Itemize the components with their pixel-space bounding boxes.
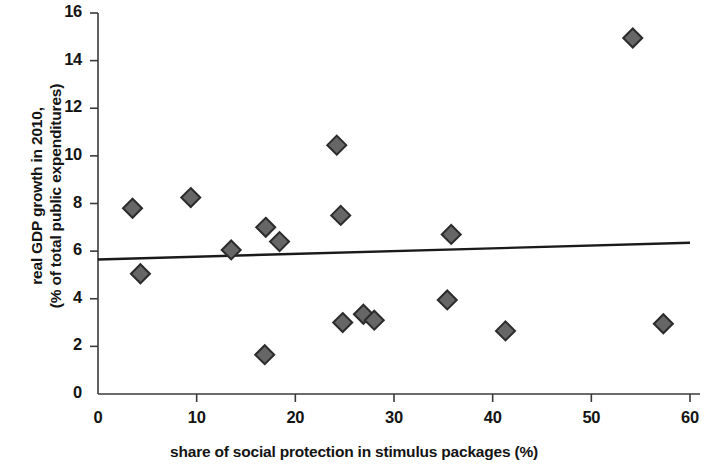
data-points xyxy=(123,29,673,365)
trend-line-segment xyxy=(98,243,690,260)
y-tick-label: 16 xyxy=(42,2,82,21)
y-axis-title: real GDP growth in 2010, (% of total pub… xyxy=(18,46,74,346)
x-tick-label: 50 xyxy=(571,408,611,427)
x-tick-label: 60 xyxy=(670,408,708,427)
x-tick-label: 0 xyxy=(78,408,118,427)
x-tick-label: 20 xyxy=(275,408,315,427)
y-tick-label: 0 xyxy=(42,383,82,402)
x-tick-label: 10 xyxy=(177,408,217,427)
data-point-marker xyxy=(123,199,142,218)
data-point-marker xyxy=(131,264,150,283)
data-point-marker xyxy=(270,232,289,251)
y-axis-title-line1: real GDP growth in 2010, xyxy=(27,107,46,285)
data-point-marker xyxy=(256,218,275,237)
data-point-marker xyxy=(327,136,346,155)
plot-area xyxy=(0,0,708,470)
data-point-marker xyxy=(438,290,457,309)
data-point-marker xyxy=(181,188,200,207)
x-tick-marks xyxy=(197,394,690,402)
data-point-marker xyxy=(654,314,673,333)
data-point-marker xyxy=(623,29,642,48)
data-point-marker xyxy=(331,206,350,225)
scatter-chart: 0246810121416 0102030405060 real GDP gro… xyxy=(0,0,708,470)
data-point-marker xyxy=(333,313,352,332)
x-tick-label: 30 xyxy=(374,408,414,427)
x-axis-title: share of social protection in stimulus p… xyxy=(0,443,708,461)
data-point-marker xyxy=(496,321,515,340)
y-tick-marks xyxy=(90,13,98,346)
trend-line xyxy=(98,243,690,260)
y-axis-title-line2: (% of total public expenditures) xyxy=(46,84,65,308)
x-tick-label: 40 xyxy=(473,408,513,427)
data-point-marker xyxy=(442,225,461,244)
data-point-marker xyxy=(255,345,274,364)
